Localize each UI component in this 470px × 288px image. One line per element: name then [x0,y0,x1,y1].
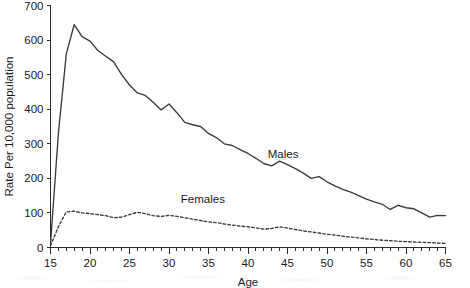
axis-lines [51,6,446,248]
x-tick-label: 20 [84,257,97,269]
y-tick-label: 100 [24,207,43,219]
y-axis-title: Rate Per 10,000 population [3,56,15,196]
x-tick-label: 60 [400,257,413,269]
y-tick-label: 200 [24,172,43,184]
y-tick-label: 300 [24,138,43,150]
series-line-males [51,25,446,245]
y-axis-ticks: 0100200300400500600700 [24,0,50,254]
x-tick-label: 30 [163,257,176,269]
series-line-females [51,211,446,246]
x-tick-label: 45 [281,257,294,269]
x-tick-label: 35 [202,257,215,269]
y-tick-label: 700 [24,0,43,12]
x-axis-ticks: 1520253035404550556065 [44,248,452,269]
x-tick-label: 65 [439,257,452,269]
x-tick-label: 25 [123,257,136,269]
y-tick-label: 400 [24,103,43,115]
x-axis-title: Age [238,276,258,288]
y-tick-label: 0 [37,242,43,254]
y-tick-label: 500 [24,69,43,81]
x-tick-label: 50 [321,257,334,269]
x-tick-label: 15 [44,257,57,269]
series-label-females: Females [181,193,225,205]
series-label-males: Males [268,148,299,160]
x-tick-label: 40 [242,257,255,269]
y-tick-label: 600 [24,34,43,46]
chart-container: 0100200300400500600700 15202530354045505… [0,0,470,288]
x-tick-label: 55 [360,257,373,269]
line-chart-plot: 0100200300400500600700 15202530354045505… [0,0,470,288]
